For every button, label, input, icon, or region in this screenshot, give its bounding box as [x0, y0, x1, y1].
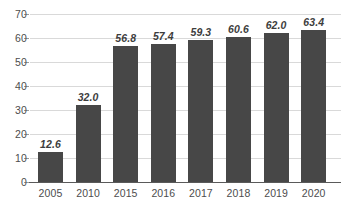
gridline: [30, 86, 341, 87]
bar[interactable]: [113, 46, 138, 182]
y-axis-tick-label: 10: [1, 153, 27, 163]
bar[interactable]: [38, 152, 63, 182]
bar-value-label: 62.0: [257, 20, 296, 31]
x-axis-tick-label: 2015: [105, 187, 146, 199]
bar[interactable]: [151, 44, 176, 182]
y-axis-tick-label: 60: [1, 33, 27, 43]
bar[interactable]: [264, 33, 289, 182]
x-axis-tick-label: 2018: [218, 187, 259, 199]
bar-value-label: 59.3: [181, 27, 220, 38]
y-axis-tick-label: 30: [1, 105, 27, 115]
y-axis-tick-label: 20: [1, 129, 27, 139]
x-axis-tick-label: 2017: [180, 187, 221, 199]
bar-value-label: 60.6: [219, 24, 258, 35]
gridline: [30, 62, 341, 63]
x-axis-tick-label: 2010: [68, 187, 109, 199]
x-axis-tick-label: 2020: [293, 187, 334, 199]
y-axis-tick-label: 40: [1, 81, 27, 91]
bar-value-label: 56.8: [106, 33, 145, 44]
y-axis-tick-label: 50: [1, 57, 27, 67]
y-axis-tick-label: 70: [1, 9, 27, 19]
x-axis-tick-label: 2016: [143, 187, 184, 199]
bar-value-label: 12.6: [31, 139, 70, 150]
bar[interactable]: [226, 37, 251, 182]
bar-value-label: 57.4: [144, 31, 183, 42]
bar-chart: 01020304050607012.6200532.0201056.820155…: [0, 0, 347, 215]
bar-value-label: 32.0: [69, 92, 108, 103]
gridline: [30, 14, 341, 15]
x-axis-tick-label: 2005: [30, 187, 71, 199]
plot-area: 01020304050607012.6200532.0201056.820155…: [0, 0, 347, 215]
bar-value-label: 63.4: [294, 17, 333, 28]
y-axis-tick-label: 0: [1, 177, 27, 187]
bar[interactable]: [301, 30, 326, 182]
bar[interactable]: [76, 105, 101, 182]
x-axis-tick-label: 2019: [256, 187, 297, 199]
bar[interactable]: [188, 40, 213, 182]
